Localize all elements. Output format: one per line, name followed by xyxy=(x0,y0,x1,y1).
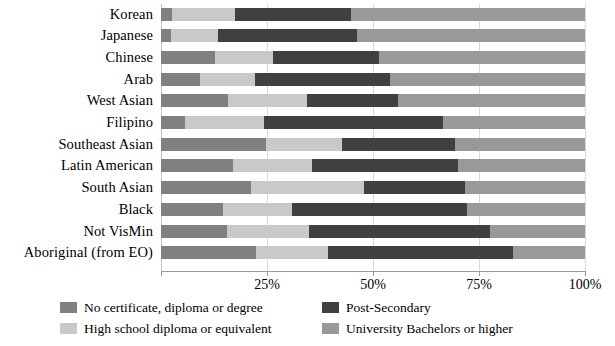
bar-segment xyxy=(398,94,585,107)
legend-entry[interactable]: High school diploma or equivalent xyxy=(60,319,271,337)
bar-segment xyxy=(161,51,215,64)
category-label: Filipino xyxy=(0,115,153,129)
bar-segment xyxy=(161,225,227,238)
bar-segment xyxy=(215,51,273,64)
category-label: Latin American xyxy=(0,158,153,172)
bar-segment xyxy=(161,116,185,129)
category-label: Southeast Asian xyxy=(0,137,153,151)
bar-segment xyxy=(455,138,585,151)
category-label: Arab xyxy=(0,72,153,86)
x-tick-mark xyxy=(585,271,586,276)
bar-row xyxy=(161,246,585,259)
category-label: Japanese xyxy=(0,28,153,42)
legend-swatch xyxy=(322,302,339,313)
category-label: South Asian xyxy=(0,180,153,194)
legend-label: High school diploma or equivalent xyxy=(84,321,271,336)
bar-row xyxy=(161,73,585,86)
bar-segment xyxy=(185,116,264,129)
bar-segment xyxy=(273,51,378,64)
bar-segment xyxy=(161,138,266,151)
bar-segment xyxy=(379,51,585,64)
bar-segment xyxy=(458,159,585,172)
bar-segment xyxy=(200,73,254,86)
bar-segment xyxy=(161,246,256,259)
x-tick-mark xyxy=(479,271,480,276)
legend-entry[interactable]: University Bachelors or higher xyxy=(322,319,513,337)
legend-label: No certificate, diploma or degree xyxy=(84,300,263,315)
category-label: Aboriginal (from EO) xyxy=(0,245,153,259)
x-tick-mark xyxy=(267,271,268,276)
bar-segment xyxy=(172,8,235,21)
bar-segment xyxy=(255,73,391,86)
bar-segment xyxy=(266,138,342,151)
bar-row xyxy=(161,138,585,151)
bar-segment xyxy=(490,225,585,238)
bar-row xyxy=(161,8,585,21)
bar-segment xyxy=(161,73,200,86)
bar-row xyxy=(161,225,585,238)
bar-segment xyxy=(227,225,309,238)
x-tick-mark xyxy=(373,271,374,276)
legend-label: University Bachelors or higher xyxy=(346,321,513,336)
legend-label: Post-Secondary xyxy=(346,300,431,315)
bar-segment xyxy=(351,8,585,21)
bar-segment xyxy=(513,246,585,259)
bar-segment xyxy=(161,94,228,107)
bar-segment xyxy=(233,159,312,172)
bar-row xyxy=(161,159,585,172)
bar-segment xyxy=(312,159,458,172)
bar-row xyxy=(161,51,585,64)
bar-segment xyxy=(292,203,466,216)
bar-row xyxy=(161,116,585,129)
bar-row xyxy=(161,29,585,42)
bar-row xyxy=(161,181,585,194)
category-label: Chinese xyxy=(0,50,153,64)
category-label: Black xyxy=(0,202,153,216)
bar-segment xyxy=(390,73,585,86)
legend-swatch xyxy=(322,323,339,334)
category-axis-labels: KoreanJapaneseChineseArabWest AsianFilip… xyxy=(0,0,153,268)
gridline xyxy=(585,4,586,271)
x-tick-label: 25% xyxy=(237,277,297,293)
bar-segment xyxy=(264,116,443,129)
bar-segment xyxy=(309,225,490,238)
bar-segment xyxy=(328,246,512,259)
legend-swatch xyxy=(60,323,77,334)
bar-segment xyxy=(161,159,233,172)
bar-segment xyxy=(161,203,223,216)
bar-segment xyxy=(161,181,251,194)
x-tick-label: 50% xyxy=(343,277,403,293)
bar-segment xyxy=(357,29,585,42)
bar-row xyxy=(161,94,585,107)
bar-segment xyxy=(467,203,585,216)
category-label: Korean xyxy=(0,7,153,21)
stacked-bar-chart: KoreanJapaneseChineseArabWest AsianFilip… xyxy=(0,0,615,346)
x-tick-mark xyxy=(161,271,162,276)
bar-segment xyxy=(218,29,357,42)
bar-segment xyxy=(465,181,585,194)
category-label: West Asian xyxy=(0,93,153,107)
bar-segment xyxy=(342,138,455,151)
bar-segment xyxy=(364,181,465,194)
bar-segment xyxy=(228,94,306,107)
category-label: Not VisMin xyxy=(0,224,153,238)
bar-segment xyxy=(223,203,292,216)
bar-row xyxy=(161,203,585,216)
x-tick-label: 75% xyxy=(449,277,509,293)
bar-segment xyxy=(307,94,399,107)
legend-entry[interactable]: Post-Secondary xyxy=(322,298,431,316)
bar-segment xyxy=(256,246,328,259)
bar-segment xyxy=(235,8,351,21)
bar-segment xyxy=(171,29,218,42)
x-tick-label: 100% xyxy=(555,277,615,293)
bar-segment xyxy=(161,29,171,42)
plot-area xyxy=(161,4,585,271)
legend-entry[interactable]: No certificate, diploma or degree xyxy=(60,298,263,316)
bar-segment xyxy=(161,8,172,21)
bar-segment xyxy=(251,181,364,194)
chart-legend: No certificate, diploma or degreeHigh sc… xyxy=(60,298,560,340)
bar-segment xyxy=(443,116,585,129)
legend-swatch xyxy=(60,302,77,313)
